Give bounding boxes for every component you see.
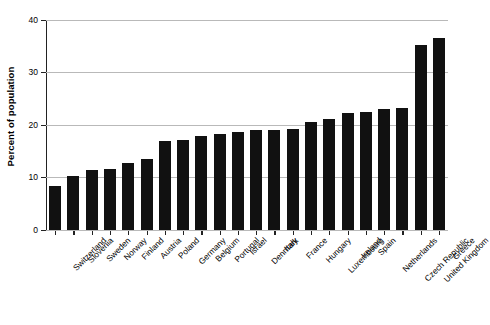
x-tick-mark — [256, 231, 257, 235]
x-tick-mark — [348, 231, 349, 235]
x-tick-mark — [110, 231, 111, 235]
x-tick-mark — [128, 231, 129, 235]
bar — [433, 38, 445, 230]
bar — [104, 169, 116, 230]
x-tick-mark — [421, 231, 422, 235]
bar — [141, 159, 153, 230]
x-tick-mark — [55, 231, 56, 235]
y-axis-title-text: Percent of population — [6, 66, 17, 166]
bar — [287, 129, 299, 230]
y-tick-label: 10 — [8, 173, 38, 182]
x-tick-mark — [274, 231, 275, 235]
bars — [46, 20, 448, 230]
x-tick-mark — [329, 231, 330, 235]
y-tick-label: 40 — [8, 16, 38, 25]
x-tick-mark — [73, 231, 74, 235]
bar — [378, 109, 390, 230]
x-tick-mark — [238, 231, 239, 235]
x-tick-mark — [384, 231, 385, 235]
x-tick-mark — [183, 231, 184, 235]
bar — [122, 163, 134, 230]
x-tick-mark — [92, 231, 93, 235]
bar — [195, 136, 207, 230]
bar — [250, 130, 262, 230]
x-tick-mark — [220, 231, 221, 235]
bar — [396, 108, 408, 230]
x-axis-label: Hungary — [324, 236, 353, 265]
bar — [305, 122, 317, 230]
x-tick-mark — [147, 231, 148, 235]
x-tick-mark — [165, 231, 166, 235]
y-tick-label: 20 — [8, 121, 38, 130]
bar — [86, 170, 98, 230]
bar — [268, 130, 280, 230]
x-tick-mark — [366, 231, 367, 235]
bar — [342, 113, 354, 230]
x-tick-mark — [439, 231, 440, 235]
y-tick-label: 0 — [8, 226, 38, 235]
bar — [360, 112, 372, 230]
bar — [49, 186, 61, 230]
x-tick-mark — [311, 231, 312, 235]
y-axis-title: Percent of population — [0, 0, 22, 232]
bar — [415, 45, 427, 230]
bar — [67, 176, 79, 230]
y-tick-label: 30 — [8, 68, 38, 77]
x-tick-mark — [402, 231, 403, 235]
x-tick-mark — [201, 231, 202, 235]
bar — [232, 132, 244, 230]
bar — [177, 140, 189, 230]
bar — [159, 141, 171, 230]
bar — [323, 119, 335, 230]
bar — [214, 134, 226, 230]
